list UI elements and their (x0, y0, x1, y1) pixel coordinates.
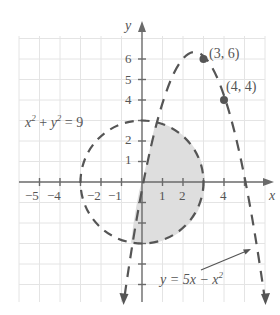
x-tick-label: −2 (87, 188, 101, 203)
x-tick-label: 4 (220, 188, 227, 203)
circle-equation-label: x2 + y2 = 9 (24, 113, 83, 130)
y-axis-arrow-icon (138, 21, 146, 32)
point-3-6 (200, 55, 208, 63)
x-tick-label: 1 (159, 188, 166, 203)
point-label-4-4: (4, 4) (226, 79, 257, 95)
x-tick-label: −4 (47, 188, 61, 203)
x-tick-label: −5 (25, 188, 39, 203)
y-tick-labels: 1 2 4 5 6 (125, 51, 132, 167)
parabola-left-arrow-icon (120, 293, 129, 305)
x-axis-label: x (268, 188, 276, 203)
point-label-3-6: (3, 6) (209, 46, 240, 62)
x-tick-label: −1 (108, 188, 122, 203)
graph-figure: −5 −4 −2 −1 1 2 4 1 2 4 5 6 y x x2 + y2 … (0, 0, 280, 315)
parabola-label-pointer (201, 250, 249, 270)
x-tick-label: 2 (179, 188, 186, 203)
y-tick-label: 4 (125, 92, 132, 107)
x-axis-arrow-icon (263, 178, 274, 186)
y-tick-label: 1 (125, 152, 132, 167)
point-4-4 (220, 96, 228, 104)
y-tick-label: 2 (125, 132, 132, 147)
y-axis-label: y (123, 18, 132, 33)
parabola-right-arrow-icon (261, 293, 270, 305)
parabola-equation-label: y = 5x − x2 (158, 270, 224, 287)
coordinate-plane: −5 −4 −2 −1 1 2 4 1 2 4 5 6 y x x2 + y2 … (0, 0, 280, 315)
y-tick-label: 6 (125, 51, 132, 66)
y-tick-label: 5 (125, 72, 132, 87)
